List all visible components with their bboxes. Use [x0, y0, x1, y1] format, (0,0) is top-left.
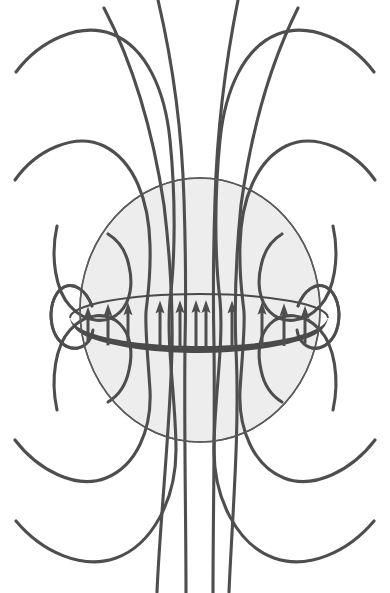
field-diagram-canvas: [0, 0, 390, 593]
magnetic-dipole-figure: [0, 0, 390, 593]
